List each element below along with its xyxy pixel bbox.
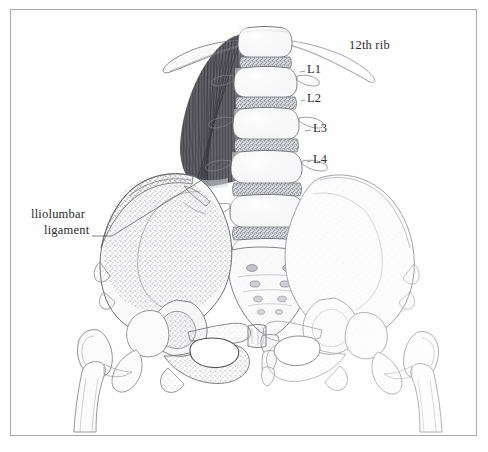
label-l4: L4 [313,152,327,167]
label-l1: L1 [307,62,321,77]
label-l2: L2 [307,91,321,106]
figure-page: 12th rib L1 L2 L3 L4 lliolumbar ligament [0,0,488,452]
label-iliolumbar-line2: ligament [31,222,89,238]
label-iliolumbar-ligament: lliolumbar ligament [31,206,89,238]
label-12th-rib: 12th rib [349,38,390,53]
label-iliolumbar-line1: lliolumbar [31,207,85,221]
label-l3: L3 [313,121,327,136]
